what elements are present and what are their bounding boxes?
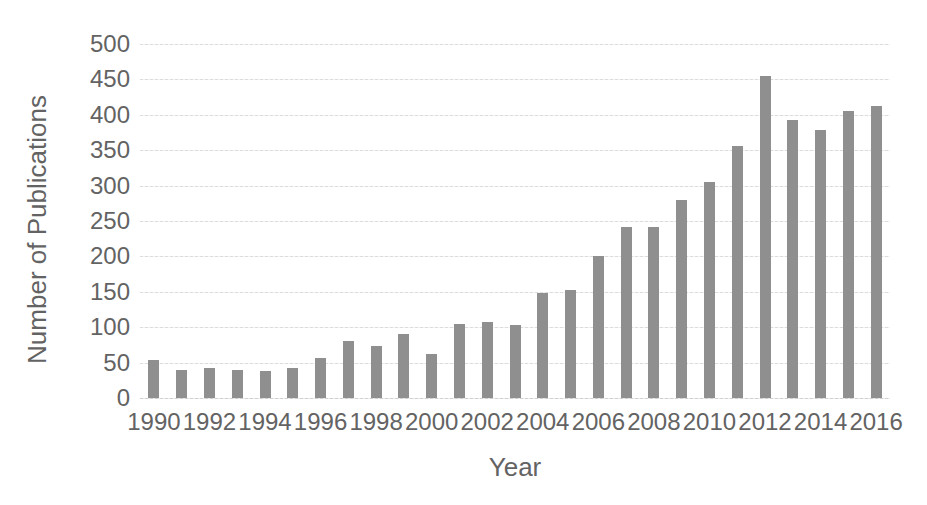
publications-bar-chart: Number of Publications 50045040035030025… xyxy=(0,0,927,505)
bar xyxy=(537,293,548,398)
bar xyxy=(704,182,715,398)
y-axis-tick-label: 200 xyxy=(52,244,130,268)
bar xyxy=(482,322,493,398)
y-axis-tick-label: 50 xyxy=(52,351,130,375)
bar xyxy=(593,256,604,398)
x-axis-tick-label: 2016 xyxy=(844,406,908,437)
bar xyxy=(760,76,771,398)
y-axis-tick-label: 300 xyxy=(52,174,130,198)
x-axis-tick-label: 2012 xyxy=(733,406,797,437)
bar xyxy=(871,106,882,398)
x-axis-title: Year xyxy=(140,452,890,483)
x-axis-tick-label: 2010 xyxy=(677,406,741,437)
bar xyxy=(315,358,326,398)
bar xyxy=(398,334,409,398)
bar xyxy=(232,370,243,398)
x-axis-tick-labels: 1990199219941996199820002002200420062008… xyxy=(140,406,890,442)
x-axis-tick-label: 1998 xyxy=(344,406,408,437)
y-axis-tick-label: 450 xyxy=(52,67,130,91)
x-axis-tick-label: 1990 xyxy=(122,406,186,437)
bar xyxy=(371,346,382,398)
x-axis-tick-label: 2014 xyxy=(789,406,853,437)
plot-area xyxy=(140,44,890,398)
bar xyxy=(732,146,743,398)
bar xyxy=(176,370,187,398)
bar xyxy=(648,227,659,398)
y-axis-tick-label: 400 xyxy=(52,103,130,127)
bar xyxy=(426,354,437,398)
bar xyxy=(148,360,159,398)
bar xyxy=(260,371,271,398)
bar xyxy=(343,341,354,398)
y-axis-tick-labels: 500450400350300250200150100500 xyxy=(52,30,130,412)
y-axis-tick-label: 350 xyxy=(52,138,130,162)
bar xyxy=(843,111,854,398)
gridline xyxy=(140,398,890,399)
y-axis-tick-label: 0 xyxy=(52,386,130,410)
bar xyxy=(565,290,576,398)
x-axis-tick-label: 1996 xyxy=(289,406,353,437)
y-axis-tick-label: 250 xyxy=(52,209,130,233)
bar xyxy=(787,120,798,398)
bar xyxy=(510,325,521,398)
y-axis-tick-label: 100 xyxy=(52,315,130,339)
bar xyxy=(287,368,298,398)
x-axis-tick-label: 1994 xyxy=(233,406,297,437)
bar-series xyxy=(140,44,890,398)
bar xyxy=(815,130,826,398)
x-axis-tick-label: 2000 xyxy=(400,406,464,437)
x-axis-tick-label: 1992 xyxy=(177,406,241,437)
bar xyxy=(621,227,632,398)
bar xyxy=(676,200,687,398)
x-axis-tick-label: 2004 xyxy=(511,406,575,437)
bar xyxy=(454,324,465,398)
y-axis-title: Number of Publications xyxy=(22,85,53,375)
bar xyxy=(204,368,215,398)
x-axis-tick-label: 2008 xyxy=(622,406,686,437)
y-axis-tick-label: 500 xyxy=(52,32,130,56)
x-axis-tick-label: 2006 xyxy=(566,406,630,437)
y-axis-tick-label: 150 xyxy=(52,280,130,304)
x-axis-tick-label: 2002 xyxy=(455,406,519,437)
